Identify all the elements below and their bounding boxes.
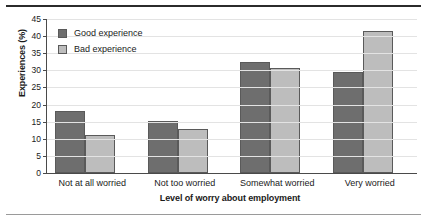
y-axis-tick-mark bbox=[43, 70, 47, 71]
y-axis-tick-label: 20 bbox=[32, 100, 41, 110]
y-axis-tick-label: 15 bbox=[32, 117, 41, 127]
legend-swatch-icon bbox=[58, 29, 67, 38]
y-axis-tick-label: 45 bbox=[32, 14, 41, 24]
y-axis-tick-mark bbox=[43, 87, 47, 88]
y-axis-tick-mark bbox=[43, 36, 47, 37]
y-axis-tick-label: 40 bbox=[32, 31, 41, 41]
y-axis-tick-mark bbox=[43, 53, 47, 54]
x-axis-title: Level of worry about employment bbox=[40, 193, 420, 203]
legend-item: Good experience bbox=[58, 28, 143, 38]
y-axis-tick-mark bbox=[43, 122, 47, 123]
bar-group bbox=[325, 19, 418, 173]
legend-swatch-icon bbox=[58, 45, 67, 54]
y-axis-tick-mark bbox=[43, 19, 47, 20]
x-axis-category-label: Somewhat worried bbox=[231, 178, 324, 188]
bar-chart-figure: Experiences (%) 051015202530354045 Not a… bbox=[0, 0, 427, 224]
y-axis-tick-label: 35 bbox=[32, 48, 41, 58]
y-axis-tick-label: 10 bbox=[32, 134, 41, 144]
x-axis-category-label: Not at all worried bbox=[46, 178, 139, 188]
gridline bbox=[47, 156, 417, 157]
bottom-divider-rule bbox=[6, 214, 421, 215]
y-axis-title: Experiences (%) bbox=[17, 0, 27, 133]
legend-label: Good experience bbox=[74, 28, 143, 38]
chart-legend: Good experienceBad experience bbox=[58, 28, 143, 60]
bar-good-experience bbox=[148, 121, 178, 173]
legend-item: Bad experience bbox=[58, 44, 143, 54]
gridline bbox=[47, 105, 417, 106]
gridline bbox=[47, 122, 417, 123]
y-axis-tick-mark bbox=[43, 105, 47, 106]
y-axis-tick-label: 5 bbox=[36, 151, 41, 161]
y-axis-tick-label: 25 bbox=[32, 82, 41, 92]
gridline bbox=[47, 139, 417, 140]
x-axis-category-label: Very worried bbox=[324, 178, 417, 188]
bar-bad-experience bbox=[85, 135, 115, 173]
x-axis-category-label: Not too worried bbox=[139, 178, 232, 188]
top-divider-rule bbox=[6, 5, 421, 7]
legend-label: Bad experience bbox=[74, 44, 137, 54]
bar-group bbox=[140, 19, 233, 173]
y-axis-tick-mark bbox=[43, 139, 47, 140]
y-axis-tick-mark bbox=[43, 173, 47, 174]
bar-bad-experience bbox=[270, 68, 300, 173]
bar-good-experience bbox=[55, 111, 85, 173]
bar-group bbox=[232, 19, 325, 173]
gridline bbox=[47, 19, 417, 20]
y-axis-tick-mark bbox=[43, 156, 47, 157]
gridline bbox=[47, 87, 417, 88]
bar-bad-experience bbox=[178, 129, 208, 173]
y-axis-tick-label: 30 bbox=[32, 65, 41, 75]
y-axis-tick-label: 0 bbox=[36, 168, 41, 178]
gridline bbox=[47, 70, 417, 71]
